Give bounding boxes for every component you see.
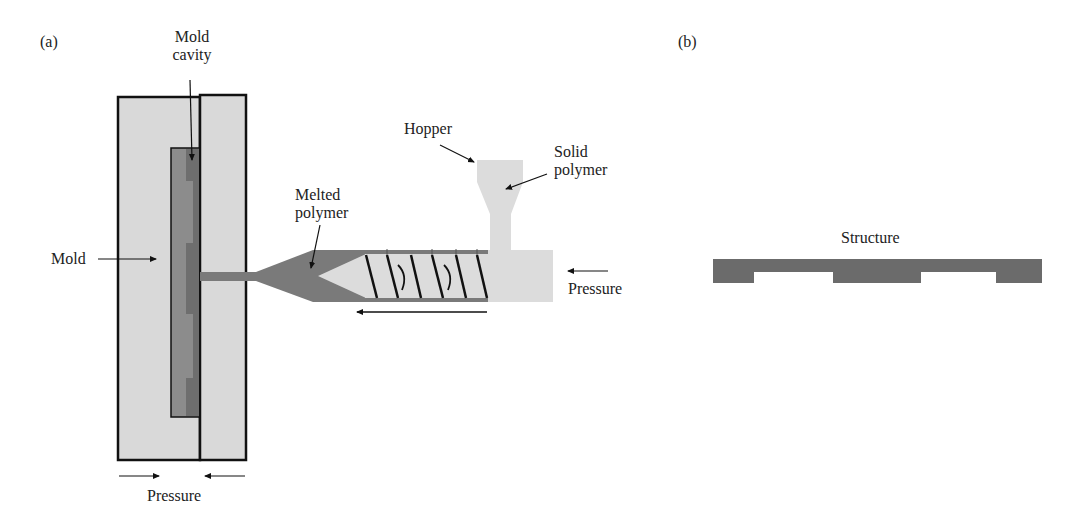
melted-polymer-label: Melted polymer — [295, 186, 348, 222]
hopper-pointer — [440, 145, 474, 162]
mold-cavity — [171, 148, 200, 460]
melted-polymer-label-line1: Melted — [295, 186, 348, 204]
hopper-label: Hopper — [404, 120, 452, 138]
panel-a-tag: (a) — [40, 33, 58, 51]
solid-polymer-label-line1: Solid — [554, 143, 607, 161]
mold-cavity-label-line2: cavity — [163, 46, 221, 64]
mold-cavity-label: Mold cavity — [163, 28, 221, 64]
panel-b-tag: (b) — [678, 33, 697, 51]
solid-polymer-label-line2: polymer — [554, 161, 607, 179]
pressure-bottom-label: Pressure — [147, 487, 201, 505]
sprue-channel — [200, 272, 258, 281]
melted-polymer-label-line2: polymer — [295, 204, 348, 222]
hopper — [477, 160, 523, 252]
pressure-right-label: Pressure — [568, 280, 622, 298]
mold-cavity-label-line1: Mold — [163, 28, 221, 46]
structure-shape — [713, 259, 1042, 283]
mold-label: Mold — [51, 250, 86, 268]
barrel-interior — [365, 254, 488, 298]
solid-polymer-label: Solid polymer — [554, 143, 607, 179]
structure-label: Structure — [841, 229, 900, 247]
diagram-canvas — [0, 0, 1086, 523]
